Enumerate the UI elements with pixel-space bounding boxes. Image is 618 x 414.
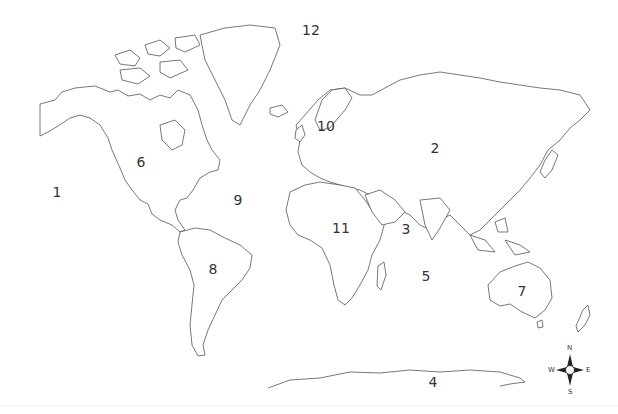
region-label-1: 1 [53, 185, 62, 199]
compass-south: S [568, 388, 572, 396]
region-label-8: 8 [209, 262, 218, 276]
compass-rose: N S W E [548, 346, 592, 396]
compass-north: N [567, 344, 572, 352]
region-label-6: 6 [137, 155, 146, 169]
region-label-4: 4 [429, 375, 438, 389]
region-label-11: 11 [332, 221, 350, 235]
world-map [0, 0, 618, 414]
compass-east: E [586, 366, 590, 374]
iceland-outline [270, 105, 288, 117]
greenland-outline [200, 25, 280, 125]
new-zealand-outline [576, 305, 590, 332]
region-label-3: 3 [402, 222, 411, 236]
region-label-9: 9 [234, 193, 243, 207]
south-america-outline [178, 228, 252, 356]
bottom-divider [0, 405, 618, 406]
antarctica-outline [268, 370, 525, 388]
region-label-5: 5 [422, 269, 431, 283]
compass-west: W [548, 366, 555, 374]
tasmania-outline [537, 320, 543, 328]
region-label-7: 7 [518, 284, 527, 298]
region-label-10: 10 [317, 119, 335, 133]
arctic-islands-outline [115, 35, 200, 84]
north-america-outline [40, 86, 220, 232]
india-outline [420, 198, 450, 240]
madagascar-outline [377, 262, 386, 290]
region-label-12: 12 [302, 23, 320, 37]
region-label-2: 2 [431, 141, 440, 155]
